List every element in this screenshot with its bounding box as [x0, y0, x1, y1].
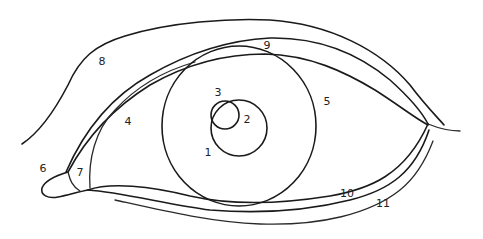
label-6: 6 — [40, 163, 47, 174]
label-5: 5 — [324, 96, 331, 107]
label-8: 8 — [99, 56, 106, 67]
iris-circle — [162, 46, 316, 206]
label-11: 11 — [376, 198, 390, 209]
light-reflection-circle — [211, 101, 239, 129]
label-10: 10 — [340, 188, 354, 199]
eye-drawing-svg — [0, 0, 483, 239]
label-7: 7 — [77, 167, 84, 178]
label-3: 3 — [215, 87, 222, 98]
eye-diagram: 1 2 3 4 5 6 7 8 9 10 11 — [0, 0, 483, 239]
eyelid-fold-outline — [22, 20, 444, 144]
label-4: 4 — [125, 116, 132, 127]
label-1: 1 — [205, 147, 212, 158]
inner-canthus-line — [90, 62, 195, 188]
label-9: 9 — [264, 40, 271, 51]
label-2: 2 — [244, 114, 251, 125]
